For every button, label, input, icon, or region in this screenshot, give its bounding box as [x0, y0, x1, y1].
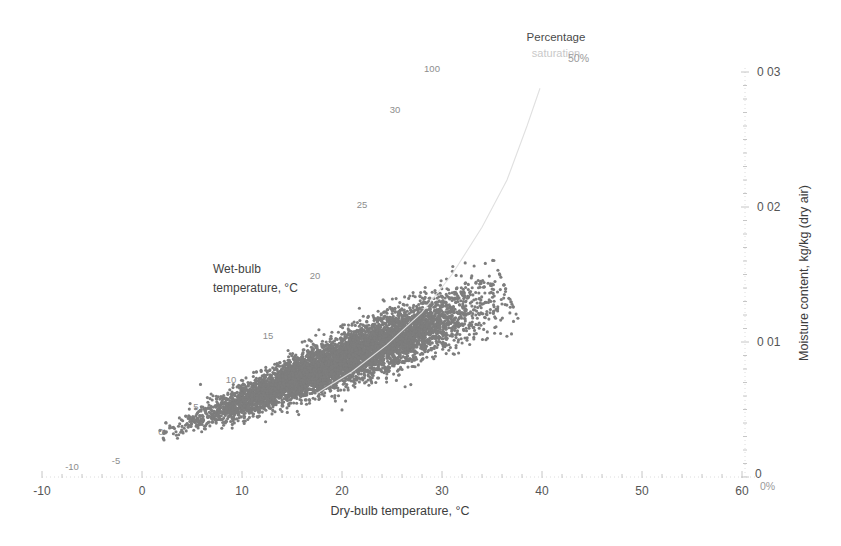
scatter-point — [296, 410, 299, 413]
scatter-point — [409, 383, 412, 386]
scatter-point — [399, 312, 402, 315]
scatter-point — [383, 362, 386, 365]
scatter-point — [478, 304, 481, 307]
scatter-point — [353, 330, 356, 333]
scatter-point — [418, 294, 421, 297]
scatter-point — [337, 331, 340, 334]
scatter-point — [288, 391, 291, 394]
scatter-point — [431, 355, 434, 358]
scatter-point — [380, 331, 383, 334]
scatter-point — [292, 393, 295, 396]
scatter-point — [387, 328, 390, 331]
scatter-point — [274, 380, 277, 383]
wet-bulb-tick-label: -10 — [65, 461, 79, 472]
wet-bulb-tick-label: 0 — [158, 426, 163, 437]
y-tick-labels: 0 010 020 03 — [757, 65, 781, 349]
scatter-point — [426, 350, 429, 353]
scatter-point — [386, 360, 389, 363]
scatter-point — [462, 288, 465, 291]
scatter-point — [435, 300, 438, 303]
scatter-point — [268, 406, 271, 409]
scatter-point — [301, 379, 304, 382]
scatter-point — [339, 349, 342, 352]
scatter-point — [356, 321, 359, 324]
scatter-point — [279, 396, 282, 399]
scatter-point — [330, 371, 333, 374]
scatter-point — [243, 383, 246, 386]
scatter-point — [450, 329, 453, 332]
scatter-point — [350, 365, 353, 368]
scatter-point — [304, 385, 307, 388]
scatter-point — [239, 410, 242, 413]
scatter-point — [370, 345, 373, 348]
scatter-point — [320, 351, 323, 354]
scatter-point — [295, 402, 298, 405]
scatter-point — [370, 363, 373, 366]
scatter-point — [382, 338, 385, 341]
scatter-point — [391, 312, 394, 315]
scatter-point — [252, 371, 255, 374]
scatter-point — [397, 374, 400, 377]
scatter-point — [362, 315, 365, 318]
scatter-point — [271, 366, 274, 369]
scatter-point — [478, 327, 481, 330]
scatter-point — [427, 332, 430, 335]
scatter-point — [493, 326, 496, 329]
scatter-point — [204, 411, 207, 414]
scatter-point — [383, 350, 386, 353]
scatter-point — [489, 311, 492, 314]
scatter-point — [349, 362, 352, 365]
scatter-point — [340, 408, 343, 411]
scatter-point — [215, 397, 218, 400]
scatter-point — [463, 314, 466, 317]
x-tick-label: -10 — [33, 484, 51, 498]
scatter-point — [387, 370, 390, 373]
scatter-point — [489, 282, 492, 285]
scatter-point — [315, 389, 318, 392]
scatter-point — [434, 304, 437, 307]
wet-bulb-tick-label: -5 — [112, 455, 120, 466]
scatter-point — [271, 376, 274, 379]
scatter-point — [303, 392, 306, 395]
scatter-point — [279, 408, 282, 411]
scatter-point — [256, 388, 259, 391]
scatter-point — [248, 416, 251, 419]
scatter-point — [447, 343, 450, 346]
scatter-point — [395, 297, 398, 300]
scatter-point — [424, 332, 427, 335]
wet-bulb-tick-label: 100 — [424, 63, 440, 74]
scatter-point — [224, 410, 227, 413]
scatter-point — [266, 370, 269, 373]
scatter-point — [228, 388, 231, 391]
scatter-point — [329, 379, 332, 382]
scatter-point — [461, 305, 464, 308]
scatter-point — [367, 339, 370, 342]
scatter-point — [358, 307, 361, 310]
scatter-point — [207, 404, 210, 407]
scatter-point — [500, 298, 503, 301]
scatter-point — [508, 311, 511, 314]
scatter-point — [413, 365, 416, 368]
scatter-point — [397, 349, 400, 352]
scatter-point — [382, 317, 385, 320]
scatter-point — [206, 401, 209, 404]
scatter-point — [380, 312, 383, 315]
scatter-point — [367, 384, 370, 387]
scatter-point — [499, 288, 502, 291]
scatter-point — [435, 319, 438, 322]
scatter-point — [249, 410, 252, 413]
scatter-point — [282, 381, 285, 384]
scatter-point — [485, 310, 488, 313]
scatter-point — [231, 386, 234, 389]
scatter-point — [359, 328, 362, 331]
percentage-saturation-caption-line-1: Percentage — [527, 31, 586, 43]
scatter-point — [282, 401, 285, 404]
scatter-point — [385, 312, 388, 315]
scatter-point — [475, 332, 478, 335]
x-tick-labels: -100102030405060 — [33, 484, 749, 498]
scatter-point — [453, 339, 456, 342]
scatter-point — [236, 385, 239, 388]
scatter-point — [474, 291, 477, 294]
scatter-point — [391, 297, 394, 300]
scatter-point — [291, 384, 294, 387]
